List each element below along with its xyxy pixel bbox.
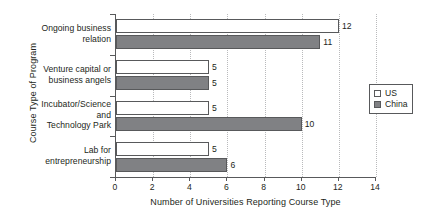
category-label-line: relation — [82, 34, 111, 44]
value-label-china-venture: 5 — [212, 79, 217, 88]
bar-china-incubator-science-technology-park — [116, 117, 302, 131]
x-tick-label-14: 14 — [363, 182, 387, 192]
x-tick-label-8: 8 — [252, 182, 276, 192]
legend-item-china: China — [374, 99, 407, 110]
value-label-us-venture: 5 — [212, 63, 217, 72]
y-tick — [110, 14, 115, 15]
value-label-china-ongoing: 11 — [323, 38, 332, 47]
x-tick-4 — [189, 177, 190, 181]
x-tick-14 — [375, 177, 376, 181]
value-label-us-ongoing: 12 — [342, 22, 352, 31]
value-label-us-lab: 5 — [212, 145, 217, 154]
legend-label-china: China — [385, 99, 407, 110]
plot-area: 12 11 5 5 5 10 5 6 — [115, 14, 375, 177]
y-tick — [110, 136, 115, 137]
x-tick-10 — [301, 177, 302, 181]
x-tick-0 — [115, 177, 116, 181]
x-tick-label-6: 6 — [214, 182, 238, 192]
value-label-us-incubator: 5 — [212, 104, 217, 113]
y-tick — [110, 96, 115, 97]
category-label-line: Technology Park — [47, 120, 111, 130]
legend-item-us: US — [374, 88, 407, 99]
y-tick — [110, 55, 115, 56]
category-label-line: and — [97, 110, 112, 120]
legend-label-us: US — [385, 88, 397, 99]
x-tick-2 — [152, 177, 153, 181]
category-label-line: entrepreneurship — [45, 156, 111, 166]
x-tick-label-0: 0 — [103, 182, 127, 192]
x-tick-label-2: 2 — [140, 182, 164, 192]
legend-swatch-icon-us — [374, 90, 381, 97]
gridline-12 — [339, 14, 340, 177]
bar-us-ongoing-business-relation — [116, 19, 339, 33]
category-label-line: Lab for — [84, 145, 111, 155]
bar-us-venture-capital — [116, 60, 209, 74]
category-label-venture-capital: Venture capital or business angels — [18, 64, 111, 85]
value-label-china-lab: 6 — [231, 161, 236, 170]
category-label-incubator-science-technology-park: Incubator/Science and Technology Park — [18, 99, 111, 131]
x-tick-6 — [226, 177, 227, 181]
y-axis-category-labels: Ongoing business relation Venture capita… — [18, 14, 111, 177]
x-tick-label-4: 4 — [177, 182, 201, 192]
category-label-line: Venture capital or — [43, 64, 111, 74]
category-label-line: business angels — [49, 75, 111, 85]
bar-china-lab-for-entrepreneurship — [116, 158, 227, 172]
category-label-line: Ongoing business — [41, 23, 111, 33]
legend: US China — [369, 84, 413, 114]
bar-chart: Course Type of Program Ongoing business … — [0, 0, 433, 218]
x-tick-8 — [264, 177, 265, 181]
category-label-lab-for-entrepreneurship: Lab for entrepreneurship — [18, 145, 111, 166]
bar-us-lab-for-entrepreneurship — [116, 142, 209, 156]
x-tick-label-10: 10 — [289, 182, 313, 192]
x-axis-title: Number of Universities Reporting Course … — [115, 197, 376, 207]
x-tick-12 — [338, 177, 339, 181]
x-axis-line — [115, 177, 376, 178]
bar-us-incubator-science-technology-park — [116, 101, 209, 115]
x-tick-label-12: 12 — [326, 182, 350, 192]
value-label-china-incubator: 10 — [305, 120, 315, 129]
bar-china-ongoing-business-relation — [116, 35, 320, 49]
bar-china-venture-capital — [116, 76, 209, 90]
legend-swatch-icon-china — [374, 101, 381, 108]
category-label-ongoing-business-relation: Ongoing business relation — [18, 23, 111, 44]
category-label-line: Incubator/Science — [41, 99, 111, 109]
